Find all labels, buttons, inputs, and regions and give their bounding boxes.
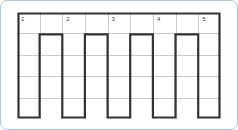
clue-number-4: 4 [157, 16, 160, 22]
page-frame: 1 2 3 4 5 [0, 0, 238, 130]
clue-number-2: 2 [66, 16, 69, 22]
comb-outline [17, 12, 221, 119]
clue-number-1: 1 [21, 16, 24, 22]
clue-number-3: 3 [112, 16, 115, 22]
puzzle-grid[interactable]: 1 2 3 4 5 [17, 12, 221, 119]
clue-number-5: 5 [202, 16, 205, 22]
